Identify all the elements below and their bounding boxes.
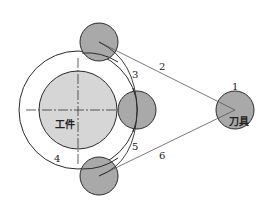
label-2: 2 [159,61,165,72]
tool-path-diagram: 1 2 3 4 5 6 工件 刀具 [0,0,271,213]
label-3: 3 [132,69,138,80]
diagram-canvas: 1 2 3 4 5 6 工件 刀具 [0,0,271,213]
workpiece-label: 工件 [55,118,75,130]
label-1: 1 [232,81,238,92]
path-line-6 [99,110,235,176]
label-4: 4 [54,153,60,164]
path-line-2 [99,42,235,110]
tool-label: 刀具 [229,116,249,127]
label-6: 6 [159,150,165,161]
label-5: 5 [132,141,138,152]
